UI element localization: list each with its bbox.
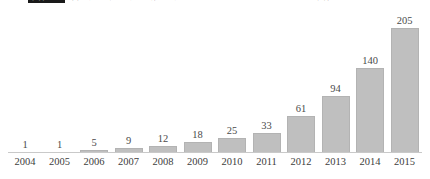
x-tick-label: 2009: [181, 155, 215, 168]
bar: [287, 116, 315, 153]
x-tick-label: 2005: [43, 155, 77, 168]
x-tick-label: 2013: [319, 155, 353, 168]
bar: [253, 133, 281, 153]
bar-value-label: 140: [353, 55, 387, 66]
figure-caption-badge: 图表 1: [28, 0, 65, 3]
bar-group: 9: [112, 12, 146, 153]
bar-group: 12: [146, 12, 180, 153]
bar-group: 205: [388, 12, 422, 153]
bar-group: 25: [215, 12, 249, 153]
bar: [218, 138, 246, 153]
x-tick-label: 2011: [250, 155, 284, 168]
x-tick-label: 2004: [8, 155, 42, 168]
bar-value-label: 205: [388, 15, 422, 26]
bar-group: 33: [250, 12, 284, 153]
bar-chart-plot-area: 1159121825336194140205: [8, 12, 422, 153]
bar-value-label: 25: [215, 125, 249, 136]
bar-group: 61: [284, 12, 318, 153]
x-tick-label: 2007: [112, 155, 146, 168]
bar-value-label: 94: [319, 83, 353, 94]
bar-value-label: 12: [146, 133, 180, 144]
bar-group: 18: [181, 12, 215, 153]
x-tick-label: 2010: [215, 155, 249, 168]
bar-value-label: 9: [112, 135, 146, 146]
x-axis-tick-labels: 2004200520062007200820092010201120122013…: [8, 155, 422, 169]
x-tick-label: 2008: [146, 155, 180, 168]
bar-value-label: 33: [250, 120, 284, 131]
bar-group: 140: [353, 12, 387, 153]
figure-caption: 图表 1 首个虚拟现实概念股自营领域的集团总市值一年内增长上涨的变化: [0, 0, 430, 3]
x-tick-label: 2014: [353, 155, 387, 168]
bar-group: 1: [43, 12, 77, 153]
chart-figure: 图表 1 首个虚拟现实概念股自营领域的集团总市值一年内增长上涨的变化 11591…: [0, 0, 430, 179]
bar-value-label: 18: [181, 129, 215, 140]
bar: [322, 96, 350, 153]
bar-group: 1: [8, 12, 42, 153]
bar-group: 5: [77, 12, 111, 153]
x-tick-label: 2015: [388, 155, 422, 168]
bar-value-label: 1: [43, 139, 77, 150]
x-tick-label: 2006: [77, 155, 111, 168]
bar: [356, 68, 384, 153]
bar-value-label: 61: [284, 103, 318, 114]
bar-value-label: 5: [77, 137, 111, 148]
x-tick-label: 2012: [284, 155, 318, 168]
bar: [391, 28, 419, 153]
figure-caption-text: 首个虚拟现实概念股自营领域的集团总市值一年内增长上涨的变化: [71, 0, 335, 2]
bar-group: 94: [319, 12, 353, 153]
x-axis-line: [8, 152, 422, 153]
bar-value-label: 1: [8, 139, 42, 150]
